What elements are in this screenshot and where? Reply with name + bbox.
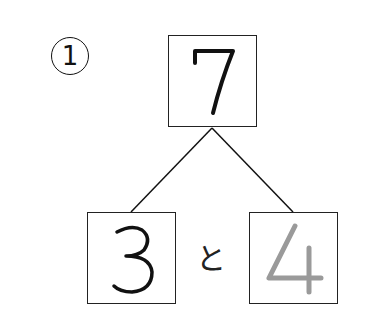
connector-to: と <box>196 244 226 274</box>
whole-number-box: 7 <box>168 35 257 127</box>
digit-7 <box>183 41 243 121</box>
digit-4-traced <box>259 218 329 298</box>
digit-3 <box>102 218 162 298</box>
left-part-box[interactable]: 3 <box>87 212 176 304</box>
right-part-box[interactable]: 4 <box>249 212 338 304</box>
